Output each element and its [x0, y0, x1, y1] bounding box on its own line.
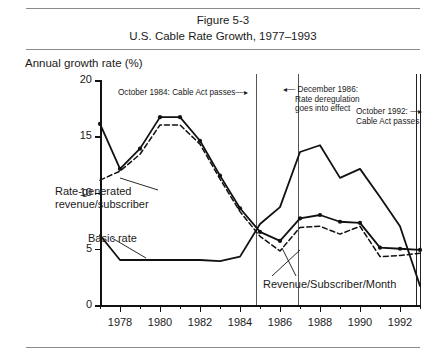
series-label-revenue-subscriber-month: Revenue/Subscriber/Month: [263, 278, 396, 291]
title-divider-rule: [26, 49, 420, 50]
data-point-marker: [338, 220, 342, 224]
arrow-left-icon: ◂—: [283, 85, 295, 94]
leader-line-revenue-subscriber-month: [272, 250, 300, 276]
arrow-right-icon-2: —▸: [410, 107, 422, 116]
x-tick-label: 1990: [348, 316, 372, 328]
data-point-marker: [178, 115, 182, 119]
data-point-marker: [378, 246, 382, 250]
leader-line-revenue-subscriber-month-2: [282, 248, 296, 276]
series-label-rate-generated-line2: revenue/subscriber: [55, 198, 149, 210]
y-tick-label: 15: [80, 129, 92, 141]
data-point-marker: [418, 248, 422, 252]
x-tick-label: 1988: [308, 316, 332, 328]
data-point-marker: [358, 221, 362, 225]
bottom-rule: [26, 347, 420, 348]
annotation-december-1986-line2: Rate deregulation: [283, 95, 360, 104]
data-point-marker: [398, 247, 402, 251]
annotation-december-1986-line1: December 1986:: [297, 85, 358, 94]
x-tick-label: 1984: [228, 316, 252, 328]
figure-title: Figure 5-3 U.S. Cable Rate Growth, 1977–…: [0, 12, 446, 44]
top-rule: [26, 8, 420, 9]
x-tick-label: 1978: [108, 316, 132, 328]
data-point-marker: [278, 239, 282, 243]
series-path-basic-rate: [100, 145, 420, 286]
y-tick-label: 0: [86, 298, 92, 310]
x-tick-label: 1986: [268, 316, 292, 328]
x-tick-minor: [420, 305, 421, 309]
data-point-marker: [258, 230, 262, 234]
series-label-basic-rate: Basic rate: [88, 232, 137, 245]
data-point-marker: [98, 122, 102, 126]
data-point-marker: [238, 206, 242, 210]
data-point-marker: [318, 213, 322, 217]
annotation-december-1986: ◂— December 1986: Rate deregulation goes…: [283, 85, 360, 114]
y-tick-label: 20: [80, 73, 92, 85]
x-tick-label: 1982: [188, 316, 212, 328]
data-point-marker: [298, 216, 302, 220]
annotation-october-1992: October 1992: —▸ Cable Act passes: [356, 107, 422, 126]
arrow-right-icon: —▸: [235, 88, 247, 97]
figure-title-line2: U.S. Cable Rate Growth, 1977–1993: [0, 28, 446, 44]
series-label-rate-generated: Rate-generated revenue/subscriber: [55, 185, 149, 211]
figure-container: Figure 5-3 U.S. Cable Rate Growth, 1977–…: [0, 0, 446, 357]
data-point-marker: [158, 115, 162, 119]
y-axis-label: Annual growth rate (%): [25, 57, 143, 69]
annotation-december-1986-line3: goes into effect: [283, 104, 350, 113]
x-tick-label: 1980: [148, 316, 172, 328]
data-point-marker: [138, 147, 142, 151]
x-tick-label: 1992: [388, 316, 412, 328]
series-label-rate-generated-line1: Rate-generated: [55, 185, 131, 197]
annotation-october-1992-line1: October 1992:: [356, 107, 410, 116]
figure-title-line1: Figure 5-3: [197, 14, 249, 26]
annotation-october-1992-line2: Cable Act passes: [356, 117, 419, 126]
annotation-october-1984-text: October 1984: Cable Act passes: [118, 88, 235, 97]
annotation-october-1984: October 1984: Cable Act passes—▸: [118, 88, 248, 98]
